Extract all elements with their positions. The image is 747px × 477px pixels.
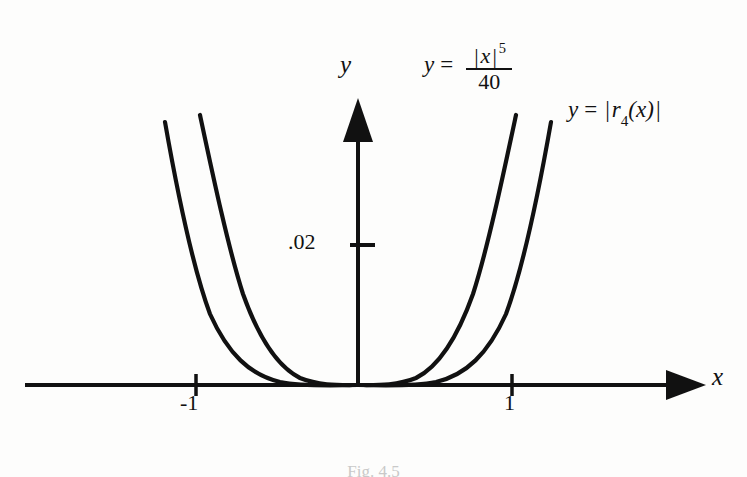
function-name: r: [612, 97, 621, 122]
y-axis-arrowhead: [343, 98, 373, 142]
curve-label-x-fifth-over-40: y= |x|5 40: [424, 42, 512, 92]
fraction-numerator: |x|5: [466, 43, 512, 68]
x-axis-label: x: [712, 364, 723, 389]
curve1-equals: =: [440, 52, 453, 77]
abs-bar-close: |: [656, 97, 661, 122]
curve2-lhs: y: [568, 97, 578, 122]
y-tick-label: .02: [288, 231, 316, 253]
figure-container: y x .02 -1 1 y= |x|5 40 y=|r4(x)| Fig. 4…: [0, 0, 747, 477]
exponent: 5: [499, 40, 506, 56]
abs-bar-open: |: [605, 97, 610, 122]
curve2-equals: =: [584, 97, 597, 122]
x-tick-label-one: 1: [504, 392, 515, 414]
abs-bar-close: |: [492, 43, 496, 68]
x-axis-arrowhead: [666, 370, 706, 400]
function-argument: (x): [628, 97, 654, 122]
curve1-lhs: y: [424, 52, 434, 77]
abs-bar-open: |: [474, 43, 478, 68]
function-subscript: 4: [621, 112, 629, 129]
fraction-denominator: 40: [466, 70, 512, 93]
x-tick-label-negative-one: -1: [180, 392, 198, 414]
curve-label-r4-abs: y=|r4(x)|: [568, 98, 663, 125]
plot-canvas: [0, 0, 747, 477]
y-axis-label: y: [340, 52, 351, 77]
figure-caption: Fig. 4.5: [0, 462, 747, 477]
fraction: |x|5 40: [466, 43, 512, 93]
numerator-variable: x: [481, 43, 491, 68]
